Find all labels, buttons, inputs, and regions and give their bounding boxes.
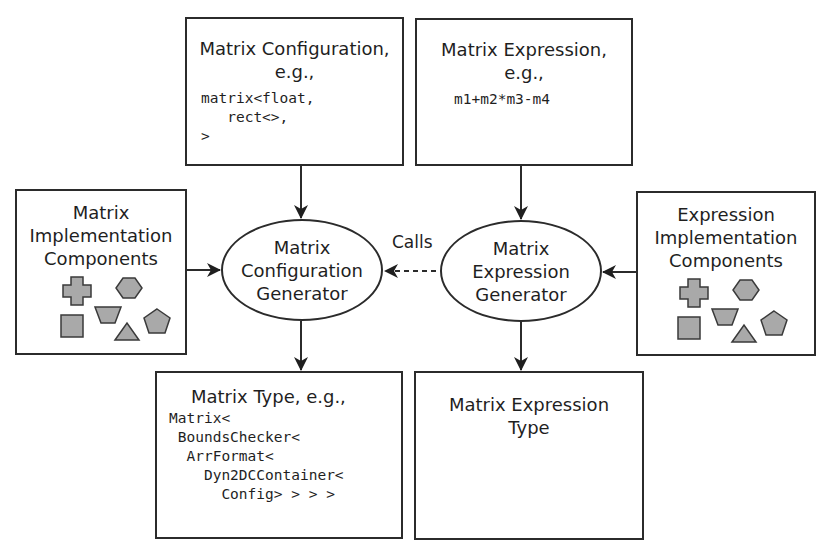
matrix-impl-label: Matrix (17, 201, 185, 224)
matrix-configuration-generator: Matrix Configuration Generator (221, 219, 383, 321)
config-generator-label: Configuration (241, 259, 363, 282)
matrix-expression-box: Matrix Expression, e.g., m1+m2*m3-m4 (415, 18, 633, 166)
matrix-implementation-components-box: Matrix Implementation Components (15, 189, 187, 355)
component-shapes-icon (57, 275, 177, 347)
config-code-line: rect<>, (201, 108, 402, 127)
pentagon-icon (761, 311, 787, 335)
matrix-expression-type-box: Matrix Expression Type (414, 371, 644, 540)
trapezoid-icon (712, 309, 738, 325)
expression-impl-label: Components (638, 249, 814, 272)
expression-impl-label: Expression (638, 203, 814, 226)
matrix-configuration-box: Matrix Configuration, e.g., matrix<float… (185, 17, 404, 166)
config-code-line: > (201, 127, 402, 146)
matrix-type-code-line: ArrFormat< (169, 447, 401, 466)
matrix-type-code-line: Config> > > > (169, 485, 401, 504)
matrix-impl-label: Implementation (17, 224, 185, 247)
matrix-expression-type-label: Matrix Expression (416, 393, 642, 416)
config-code-line: matrix<float, (201, 89, 402, 108)
config-generator-label: Matrix (274, 236, 331, 259)
matrix-type-title: Matrix Type, e.g., (157, 385, 401, 408)
matrix-expression-eg: e.g., (417, 61, 631, 84)
triangle-icon (732, 325, 756, 342)
triangle-icon (115, 323, 139, 340)
matrix-type-code-line: Dyn2DCContainer< (169, 466, 401, 485)
cross-icon (680, 279, 708, 307)
square-icon (678, 317, 700, 339)
square-icon (61, 315, 83, 337)
matrix-type-code-line: BoundsChecker< (169, 428, 401, 447)
matrix-configuration-title: Matrix Configuration, (187, 37, 402, 60)
calls-label: Calls (392, 232, 433, 252)
trapezoid-icon (95, 307, 121, 323)
matrix-expression-generator: Matrix Expression Generator (440, 220, 602, 322)
matrix-configuration-eg: e.g., (187, 60, 402, 83)
hexagon-icon (116, 278, 142, 298)
matrix-type-code-line: Matrix< (169, 409, 401, 428)
matrix-expression-title: Matrix Expression, (417, 38, 631, 61)
matrix-expression-type-label: Type (416, 416, 642, 439)
expression-implementation-components-box: Expression Implementation Components (636, 191, 816, 356)
expression-generator-label: Expression (472, 260, 570, 283)
config-generator-label: Generator (256, 282, 347, 305)
matrix-impl-label: Components (17, 247, 185, 270)
pentagon-icon (144, 309, 170, 333)
component-shapes-icon (674, 277, 794, 349)
hexagon-icon (733, 280, 759, 300)
cross-icon (63, 277, 91, 305)
expression-generator-label: Matrix (493, 237, 550, 260)
matrix-type-box: Matrix Type, e.g., Matrix< BoundsChecker… (155, 371, 403, 539)
expression-generator-label: Generator (475, 283, 566, 306)
expression-impl-label: Implementation (638, 226, 814, 249)
expression-code-line: m1+m2*m3-m4 (454, 90, 631, 109)
